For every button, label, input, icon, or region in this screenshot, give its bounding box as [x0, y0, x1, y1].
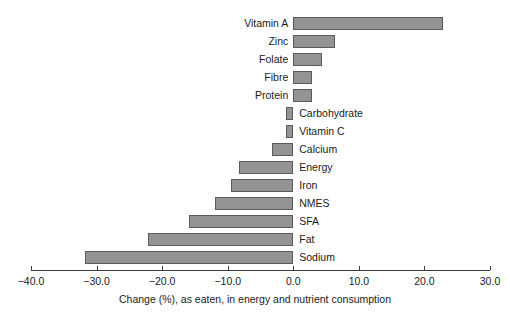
bar-category-label: Sodium [299, 250, 335, 265]
x-axis-tick [490, 266, 491, 270]
bar-category-label: Protein [255, 88, 288, 103]
bar-row: Sodium [0, 249, 510, 267]
bar-category-label: Vitamin C [299, 124, 344, 139]
bar-category-label: SFA [299, 214, 319, 229]
x-axis-tick [359, 266, 360, 270]
bar-category-label: NMES [299, 196, 329, 211]
x-axis-tick [31, 266, 32, 270]
bar [231, 179, 293, 192]
bar-row: NMES [0, 195, 510, 213]
x-axis-tick-label: 10.0 [349, 274, 369, 288]
plot-area: Vitamin AZincFolateFibreProteinCarbohydr… [0, 0, 510, 270]
x-axis-tick [228, 266, 229, 270]
bar-chart-figure: Vitamin AZincFolateFibreProteinCarbohydr… [0, 0, 510, 317]
bar-row: Energy [0, 159, 510, 177]
bar-category-label: Carbohydrate [299, 106, 363, 121]
bar-category-label: Calcium [299, 142, 337, 157]
bar-row: Vitamin A [0, 15, 510, 33]
bar-row: Calcium [0, 141, 510, 159]
bar-category-label: Fat [299, 232, 314, 247]
bar-row: Carbohydrate [0, 105, 510, 123]
x-axis-tick-label: 20.0 [414, 274, 434, 288]
bar [293, 71, 312, 84]
x-axis-tick [424, 266, 425, 270]
bar [286, 107, 293, 120]
bar [293, 53, 322, 66]
bar [215, 197, 293, 210]
bar-category-label: Vitamin A [244, 16, 288, 31]
x-axis-tick-label: 30.0 [480, 274, 500, 288]
bar-row: Folate [0, 51, 510, 69]
bar-row: Fibre [0, 69, 510, 87]
bar [293, 17, 443, 30]
x-axis-tick [162, 266, 163, 270]
x-axis-line [31, 270, 490, 271]
bar-category-label: Fibre [264, 70, 288, 85]
x-axis-tick-label: −10.0 [214, 274, 241, 288]
x-axis-tick-label: −20.0 [149, 274, 176, 288]
bar-category-label: Iron [299, 178, 317, 193]
bar [148, 233, 294, 246]
bar-row: Iron [0, 177, 510, 195]
bar [293, 35, 335, 48]
bar-row: SFA [0, 213, 510, 231]
x-axis: −40.0−30.0−20.0−10.00.010.020.030.0 Chan… [0, 270, 510, 317]
bar-row: Protein [0, 87, 510, 105]
bar [85, 251, 294, 264]
bar [293, 89, 312, 102]
x-axis-tick-label: −40.0 [18, 274, 45, 288]
bar-row: Fat [0, 231, 510, 249]
x-axis-tick [97, 266, 98, 270]
x-axis-tick-label: −30.0 [83, 274, 110, 288]
bar [286, 125, 293, 138]
bar [239, 161, 293, 174]
bar [189, 215, 293, 228]
bar-category-label: Zinc [268, 34, 288, 49]
x-axis-title: Change (%), as eaten, in energy and nutr… [0, 292, 510, 306]
x-axis-tick [293, 266, 294, 270]
bar-row: Zinc [0, 33, 510, 51]
bar-row: Vitamin C [0, 123, 510, 141]
x-axis-tick-label: 0.0 [286, 274, 301, 288]
bar-category-label: Folate [259, 52, 288, 67]
bar-category-label: Energy [299, 160, 332, 175]
bar [272, 143, 293, 156]
